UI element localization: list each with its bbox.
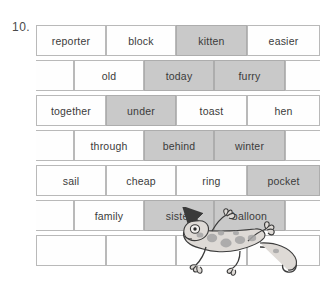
- brick-row: oldtodayfurry: [36, 60, 320, 91]
- brick-row: familysisterballoon: [36, 200, 320, 231]
- word-brick-family[interactable]: family: [74, 200, 144, 231]
- brick-row: throughbehindwinter: [36, 130, 320, 161]
- word-brick-easier[interactable]: easier: [247, 25, 320, 56]
- brick-row: [36, 235, 320, 266]
- word-brick-balloon[interactable]: balloon: [214, 200, 285, 231]
- brick-row: togetherundertoasthen: [36, 95, 320, 126]
- empty-brick: [285, 130, 320, 161]
- empty-brick: [176, 235, 247, 266]
- word-brick-kitten[interactable]: kitten: [176, 25, 247, 56]
- word-brick-under[interactable]: under: [106, 95, 176, 126]
- word-brick-block[interactable]: block: [106, 25, 176, 56]
- word-brick-through[interactable]: through: [74, 130, 144, 161]
- word-brick-today[interactable]: today: [144, 60, 214, 91]
- word-brick-toast[interactable]: toast: [176, 95, 247, 126]
- empty-brick: [285, 60, 320, 91]
- word-brick-reporter[interactable]: reporter: [36, 25, 106, 56]
- word-brick-hen[interactable]: hen: [247, 95, 320, 126]
- empty-brick: [106, 235, 176, 266]
- empty-brick: [285, 200, 320, 231]
- brick-row: sailcheapringpocket: [36, 165, 320, 196]
- word-brick-sail[interactable]: sail: [36, 165, 106, 196]
- word-brick-together[interactable]: together: [36, 95, 106, 126]
- word-brick-furry[interactable]: furry: [214, 60, 285, 91]
- empty-brick: [247, 235, 320, 266]
- empty-brick: [36, 60, 74, 91]
- word-brick-ring[interactable]: ring: [176, 165, 247, 196]
- brick-wall: reporterblockkitteneasieroldtodayfurryto…: [36, 25, 320, 270]
- empty-brick: [36, 130, 74, 161]
- word-brick-old[interactable]: old: [74, 60, 144, 91]
- word-brick-sister[interactable]: sister: [144, 200, 214, 231]
- word-brick-behind[interactable]: behind: [144, 130, 214, 161]
- brick-row: reporterblockkitteneasier: [36, 25, 320, 56]
- word-brick-cheap[interactable]: cheap: [106, 165, 176, 196]
- word-brick-pocket[interactable]: pocket: [247, 165, 320, 196]
- empty-brick: [36, 235, 106, 266]
- question-number: 10.: [12, 20, 30, 34]
- empty-brick: [36, 200, 74, 231]
- word-brick-winter[interactable]: winter: [214, 130, 285, 161]
- worksheet-page: 10. reporterblockkitteneasieroldtodayfur…: [0, 0, 334, 286]
